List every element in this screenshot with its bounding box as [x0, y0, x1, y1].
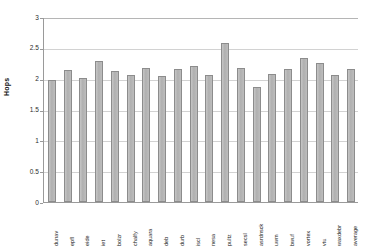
x-axis-tick-label: eide	[84, 235, 90, 246]
bar	[142, 68, 150, 202]
gridline	[44, 141, 358, 142]
x-axis-tick-label: chalfy	[132, 231, 138, 246]
x-axis-tick-label: secsl	[242, 233, 248, 246]
bar	[190, 66, 198, 202]
x-axis-tick-label: vortex	[305, 231, 311, 246]
y-axis-tick-label: 1	[5, 138, 39, 145]
y-axis-tick-label: 1.5	[5, 107, 39, 114]
x-axis-tick-label: deb	[163, 237, 169, 246]
gridline	[44, 172, 358, 173]
x-axis-tick-label: pultz	[226, 234, 232, 246]
x-axis-tick-label: dunav	[53, 231, 59, 246]
bar	[221, 43, 229, 202]
x-axis-tick-label: uwm	[273, 234, 279, 246]
bar	[253, 87, 261, 202]
x-axis-tick-label: average	[352, 226, 358, 246]
gridline	[44, 18, 358, 19]
gridline	[44, 49, 358, 50]
x-axis-tick-label: asrdnsck	[258, 224, 264, 246]
x-axis-tick-label: iet	[100, 240, 106, 246]
bar	[284, 69, 292, 202]
bar	[111, 71, 119, 202]
y-axis-tick-label: 2	[5, 76, 39, 83]
x-axis-tick-label: bolzr	[116, 234, 122, 246]
bar	[95, 61, 103, 202]
bar-chart: Hops 00.511.522.53 dunavepfleideietbolzr…	[0, 0, 383, 249]
x-axis-tick-label: waxdebr	[336, 225, 342, 246]
y-axis-tick-label: 0	[5, 200, 39, 207]
bar	[237, 68, 245, 202]
gridline	[44, 111, 358, 112]
x-axis-tick-label: epfl	[69, 237, 75, 246]
x-axis-tick-label: vtu	[321, 239, 327, 247]
bar	[64, 70, 72, 202]
x-axis-tick-label: bwuf	[289, 234, 295, 246]
bar	[158, 76, 166, 202]
y-axis-tick-label: 2.5	[5, 45, 39, 52]
x-axis-tick-label: aquara	[147, 229, 153, 246]
bar	[347, 69, 355, 202]
bar	[300, 58, 308, 202]
gridline	[44, 80, 358, 81]
y-axis-tick-mark	[40, 203, 43, 204]
x-axis-tick-labels: dunavepfleideietbolzrchalfyaquaradebdurb…	[43, 206, 358, 249]
bar	[174, 69, 182, 202]
bar	[48, 80, 56, 202]
bar	[205, 75, 213, 202]
bar	[79, 78, 87, 202]
bar	[316, 63, 324, 202]
plot-area	[43, 18, 358, 203]
bar	[268, 74, 276, 202]
x-axis-tick-label: nesa	[210, 234, 216, 246]
y-axis-tick-label: 0.5	[5, 169, 39, 176]
x-axis-tick-label: durb	[179, 235, 185, 246]
x-axis-tick-label: iscl	[195, 238, 201, 246]
y-axis-tick-label: 3	[5, 15, 39, 22]
bar	[331, 75, 339, 202]
bar	[127, 75, 135, 202]
